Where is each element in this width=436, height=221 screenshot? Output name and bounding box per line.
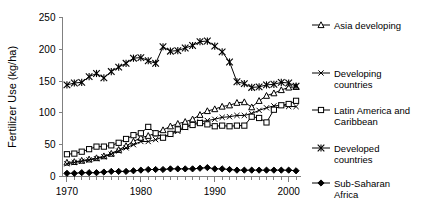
- data-point: [123, 60, 130, 67]
- data-point: [138, 167, 144, 173]
- data-point: [189, 42, 196, 49]
- data-point: [271, 107, 276, 112]
- data-point: [79, 149, 84, 154]
- data-point: [64, 170, 70, 176]
- legend-marker: [318, 107, 323, 112]
- data-point: [130, 168, 136, 174]
- data-point: [197, 165, 203, 171]
- y-tick-label: 200: [39, 44, 56, 55]
- data-point: [116, 140, 121, 145]
- data-point: [131, 133, 136, 138]
- data-point: [94, 144, 99, 149]
- data-point: [212, 124, 217, 129]
- data-point: [160, 135, 165, 140]
- data-point: [146, 124, 151, 129]
- x-tick-label: 1990: [204, 186, 227, 197]
- data-point: [278, 167, 284, 173]
- data-point: [64, 81, 71, 88]
- data-point: [197, 120, 202, 125]
- data-point: [257, 115, 262, 120]
- data-point: [234, 78, 241, 85]
- data-point: [115, 64, 122, 71]
- y-tick-label: 100: [39, 107, 56, 118]
- data-point: [226, 58, 233, 65]
- data-point: [72, 151, 77, 156]
- x-tick-label: 1970: [56, 186, 79, 197]
- data-point: [190, 122, 195, 127]
- data-point: [249, 114, 254, 119]
- data-point: [227, 124, 232, 129]
- data-point: [152, 60, 159, 67]
- data-point: [212, 166, 218, 172]
- data-point: [160, 166, 166, 172]
- legend-label-line2: countries: [334, 79, 373, 90]
- y-tick-label: 50: [44, 139, 56, 150]
- series-4: [64, 37, 300, 91]
- data-point: [182, 166, 188, 172]
- data-point: [264, 120, 269, 125]
- legend-label: Developing: [334, 68, 382, 79]
- data-point: [175, 127, 180, 132]
- x-tick-label: 2000: [278, 186, 301, 197]
- data-point: [153, 131, 158, 136]
- legend-entry-4: Developedcountries: [312, 143, 379, 166]
- series-line: [67, 105, 296, 164]
- data-point: [271, 167, 277, 173]
- y-tick-label: 150: [39, 76, 56, 87]
- legend-label: Sub-Saharan: [334, 178, 390, 189]
- data-point: [123, 136, 128, 141]
- data-point: [93, 170, 99, 176]
- data-point: [241, 167, 247, 173]
- data-point: [286, 101, 291, 106]
- data-point: [219, 48, 226, 55]
- data-point: [138, 131, 143, 136]
- data-point: [160, 43, 167, 50]
- data-point: [123, 168, 129, 174]
- data-point: [71, 170, 77, 176]
- data-point: [219, 166, 225, 172]
- data-point: [109, 143, 114, 148]
- data-point: [175, 166, 181, 172]
- chart-figure: 0501001502002501970198019902000Fertilize…: [0, 0, 436, 221]
- data-point: [93, 70, 100, 77]
- series-5: [64, 164, 299, 176]
- data-point: [286, 167, 292, 173]
- data-point: [108, 68, 115, 75]
- x-tick-label: 1980: [130, 186, 153, 197]
- data-point: [101, 144, 106, 149]
- data-point: [101, 169, 107, 175]
- data-point: [64, 152, 69, 157]
- y-tick-label: 250: [39, 12, 56, 23]
- legend-entry-5: Sub-SaharanAfrica: [312, 178, 390, 201]
- legend-label-line2: Africa: [334, 189, 359, 200]
- data-point: [293, 83, 300, 90]
- data-point: [242, 123, 247, 128]
- data-point: [293, 98, 298, 103]
- data-point: [271, 90, 277, 96]
- data-point: [234, 167, 240, 173]
- y-axis-title: Fertilizer Use (kg/ha): [6, 46, 18, 148]
- legend-label: Asia developing: [334, 20, 401, 31]
- data-point: [226, 166, 232, 172]
- data-point: [234, 123, 239, 128]
- data-point: [116, 168, 122, 174]
- data-point: [153, 166, 159, 172]
- data-point: [256, 167, 262, 173]
- legend-entry-3: Latin America andCaribbean: [312, 105, 410, 128]
- data-point: [182, 44, 189, 51]
- data-point: [86, 73, 93, 80]
- data-point: [145, 57, 152, 64]
- data-point: [257, 108, 262, 113]
- data-point: [101, 74, 108, 81]
- legend-label: Developed: [334, 143, 379, 154]
- data-point: [220, 123, 225, 128]
- data-point: [279, 103, 284, 108]
- data-point: [79, 170, 85, 176]
- data-point: [87, 147, 92, 152]
- data-point: [293, 168, 299, 174]
- data-point: [190, 116, 196, 122]
- data-point: [263, 167, 269, 173]
- data-point: [249, 167, 255, 173]
- data-point: [167, 166, 173, 172]
- data-point: [205, 122, 210, 127]
